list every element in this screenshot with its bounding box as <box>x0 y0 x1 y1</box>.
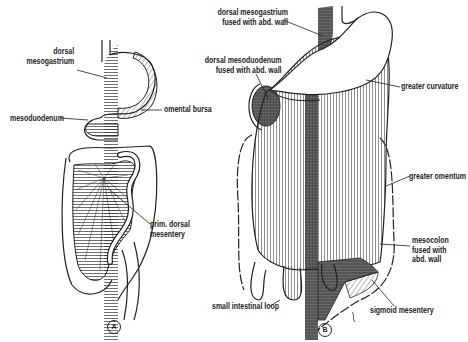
label-line: mesentery <box>150 230 190 240</box>
label-line: fused with abd. wall <box>205 66 282 76</box>
label-dorsal-mesoduodenum-fused: dorsal mesoduodenum fused with abd. wall <box>205 56 282 75</box>
label-line: mesogastrium <box>26 57 74 67</box>
label-dorsal-mesogastrium-fused: dorsal mesogastrium fused with abd. wall <box>217 8 288 27</box>
label-greater-omentum: greater omentum <box>409 172 466 182</box>
label-mesoduodenum: mesoduodenum <box>10 114 64 124</box>
panel-b-badge: B <box>318 323 332 337</box>
stomach-hatched <box>118 52 157 118</box>
label-sigmoid-mesentery: sigmoid mesentery <box>370 306 434 316</box>
panel-a-badge: A <box>107 320 121 334</box>
label-line: abd. wall <box>412 255 449 265</box>
label-dorsal-mesogastrium: dorsal mesogastrium <box>26 47 74 66</box>
label-small-intestinal-loop: small intestinal loop <box>212 302 279 312</box>
label-greater-curvature: greater curvature <box>401 82 458 92</box>
label-mesocolon-fused: mesocolon fused with abd. wall <box>412 236 449 265</box>
label-omental-bursa: omental bursa <box>164 105 212 115</box>
label-line: fused with abd. wall <box>217 18 288 28</box>
label-prim-dorsal-mesentery: prim. dorsal mesentery <box>150 220 190 239</box>
panel-a-drawing <box>62 40 157 340</box>
